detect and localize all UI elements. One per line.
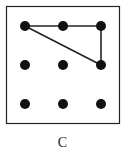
grid-dot — [96, 60, 106, 70]
grid-dot — [96, 99, 106, 109]
grid-dot — [58, 99, 68, 109]
grid-dot — [20, 60, 30, 70]
figure-label: C — [0, 135, 125, 151]
grid-dot — [96, 21, 106, 31]
grid-dot — [58, 21, 68, 31]
dot-grid — [20, 21, 106, 109]
dot-grid-diagram — [0, 0, 125, 154]
grid-dot — [20, 99, 30, 109]
grid-dot — [58, 60, 68, 70]
connecting-lines — [25, 26, 101, 65]
grid-dot — [20, 21, 30, 31]
connector-line — [25, 26, 101, 65]
